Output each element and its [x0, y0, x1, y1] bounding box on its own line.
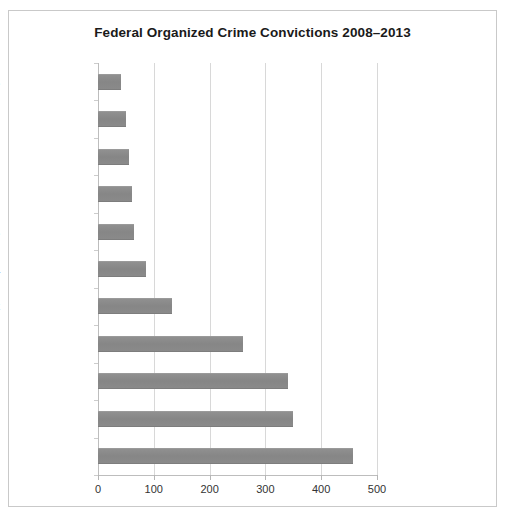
category-label-los-angeles: Los Angeles [0, 213, 7, 250]
category-label-brooklyn: Brooklyn [0, 438, 7, 475]
bar-row [98, 288, 377, 325]
x-tick-mark-400 [321, 475, 322, 480]
category-label-manhattan: Manhattan [0, 400, 7, 437]
x-tick-label-300: 300 [245, 483, 285, 495]
category-label-las-vegas: Las Vegas [0, 63, 7, 100]
plot-area [98, 63, 377, 475]
x-tick-label-200: 200 [190, 483, 230, 495]
x-tick-mark-100 [154, 475, 155, 480]
chart-frame: Federal Organized Crime Convictions 2008… [8, 10, 497, 507]
bar-tampa-orlando [98, 336, 243, 352]
category-label-newark: Newark [0, 288, 7, 325]
bar-series [98, 63, 377, 475]
bar-row [98, 63, 377, 100]
x-tick-mark-300 [265, 475, 266, 480]
x-tick-label-500: 500 [357, 483, 397, 495]
category-label-boston: Boston [0, 363, 7, 400]
category-label-philadelphia: Philadelphia [0, 250, 7, 287]
category-label-san-francisco: San Francisco [0, 138, 7, 175]
category-label-tampa-orlando: Tampa/Orlando [0, 325, 7, 362]
category-axis: Las VegasMiamiSan FranciscoSan DiegoLos … [0, 63, 7, 475]
bar-boston [98, 373, 288, 389]
y-axis-tick [94, 63, 98, 64]
bar-manhattan [98, 411, 293, 427]
y-axis-tick [94, 400, 98, 401]
bar-row [98, 100, 377, 137]
bar-row [98, 400, 377, 437]
bar-las-vegas [98, 74, 121, 90]
y-axis-tick [94, 325, 98, 326]
category-label-miami: Miami [0, 100, 7, 137]
x-tick-mark-500 [377, 475, 378, 480]
chart-title: Federal Organized Crime Convictions 2008… [9, 25, 496, 40]
y-axis-tick [94, 138, 98, 139]
bar-los-angeles [98, 224, 134, 240]
y-axis-tick [94, 438, 98, 439]
x-axis-line [98, 475, 377, 476]
category-label-san-diego: San Diego [0, 175, 7, 212]
x-tick-label-400: 400 [301, 483, 341, 495]
x-tick-label-100: 100 [134, 483, 174, 495]
x-tick-mark-0 [98, 475, 99, 480]
bar-row [98, 325, 377, 362]
bar-miami [98, 111, 126, 127]
bar-row [98, 363, 377, 400]
bar-row [98, 250, 377, 287]
gridline-500 [377, 63, 378, 475]
x-tick-label-0: 0 [78, 483, 118, 495]
y-axis-tick [94, 213, 98, 214]
x-tick-mark-200 [210, 475, 211, 480]
bar-philadelphia [98, 261, 146, 277]
y-axis-tick [94, 175, 98, 176]
bar-brooklyn [98, 448, 353, 464]
y-axis-tick [94, 288, 98, 289]
bar-row [98, 213, 377, 250]
y-axis-tick [94, 250, 98, 251]
bar-san-francisco [98, 149, 129, 165]
bar-row [98, 438, 377, 475]
bar-newark [98, 298, 172, 314]
bar-san-diego [98, 186, 132, 202]
bar-row [98, 175, 377, 212]
y-axis-tick [94, 363, 98, 364]
bar-row [98, 138, 377, 175]
y-axis-tick [94, 100, 98, 101]
